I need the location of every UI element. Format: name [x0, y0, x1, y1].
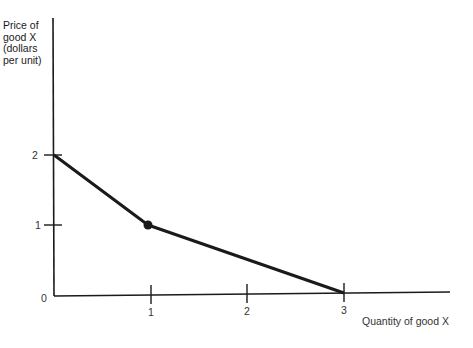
- demand-curve: [54, 155, 344, 293]
- x-tick-label-3: 3: [341, 304, 347, 316]
- point-marker: [144, 221, 153, 230]
- y-axis: [53, 18, 54, 296]
- chart-canvas: 2 1 0 1 2 3 Quantity of good X: [0, 0, 473, 348]
- x-tick-label-1: 1: [148, 306, 154, 318]
- y-tick-label-1: 1: [35, 219, 41, 231]
- x-axis-title: Quantity of good X: [362, 315, 449, 327]
- origin-label: 0: [41, 292, 47, 304]
- x-tick-label-2: 2: [244, 305, 250, 317]
- x-axis: [54, 292, 450, 296]
- y-tick-label-2: 2: [32, 149, 38, 161]
